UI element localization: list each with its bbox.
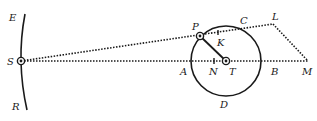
label-M: M <box>301 66 313 77</box>
dotted-line-SL <box>21 24 273 61</box>
label-A: A <box>179 66 187 77</box>
label-R: R <box>11 101 20 112</box>
dotted-line-LM <box>273 24 308 61</box>
label-C: C <box>240 15 248 26</box>
label-T: T <box>229 66 237 77</box>
label-N: N <box>208 66 219 77</box>
label-L: L <box>271 11 279 22</box>
label-E: E <box>8 12 17 23</box>
label-B: B <box>270 66 278 77</box>
point-T-marker <box>222 57 229 64</box>
diagram-canvas: E S R P C L K A N T B M D <box>0 0 317 121</box>
label-P: P <box>191 21 199 32</box>
point-P-marker <box>196 32 203 39</box>
label-D: D <box>219 99 228 110</box>
label-S: S <box>7 56 14 67</box>
label-K: K <box>216 37 225 48</box>
point-S-marker <box>17 57 24 64</box>
